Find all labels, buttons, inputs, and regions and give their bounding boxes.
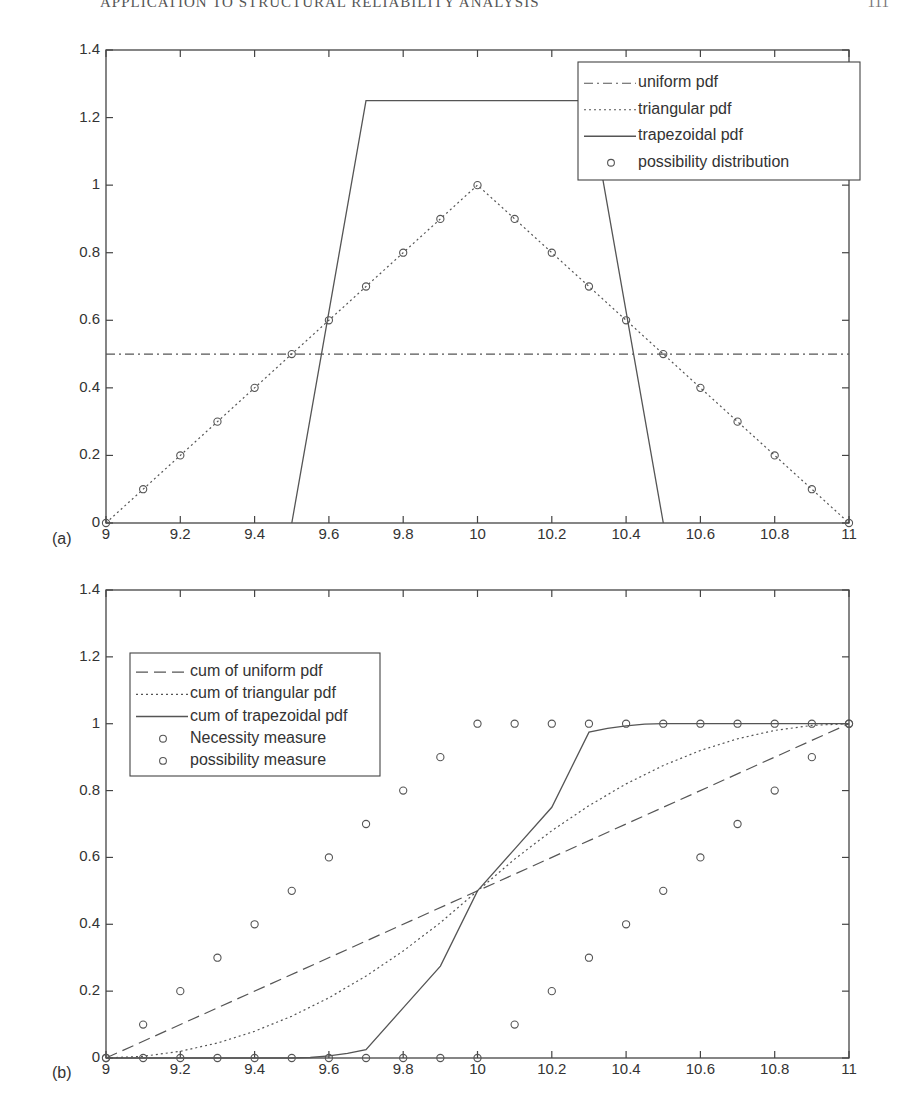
legend-label: possibility measure	[190, 751, 326, 769]
x-tick-label: 10	[448, 1060, 508, 1077]
data-marker	[771, 452, 778, 459]
x-tick-label: 10.6	[670, 1060, 730, 1077]
data-marker	[734, 418, 741, 425]
y-tick-label: 0.6	[48, 847, 100, 864]
x-tick-label: 10.4	[596, 525, 656, 542]
data-marker	[251, 921, 258, 928]
y-tick-label: 0.8	[48, 781, 100, 798]
data-marker	[771, 787, 778, 794]
y-tick-label: 0.8	[48, 243, 100, 260]
data-marker	[214, 954, 221, 961]
legend-label: uniform pdf	[638, 73, 718, 91]
data-marker	[288, 887, 295, 894]
data-marker	[177, 988, 184, 995]
legend-label: cum of uniform pdf	[190, 662, 323, 680]
x-tick-label: 11	[819, 525, 879, 542]
x-tick-label: 9.2	[150, 1060, 210, 1077]
data-marker	[585, 954, 592, 961]
x-tick-label: 9.8	[373, 525, 433, 542]
data-marker	[362, 820, 369, 827]
data-marker	[511, 720, 518, 727]
data-marker	[140, 1021, 147, 1028]
data-marker	[548, 988, 555, 995]
x-tick-label: 9.2	[150, 525, 210, 542]
y-tick-label: 1	[48, 175, 100, 192]
data-marker	[474, 720, 481, 727]
data-marker	[623, 921, 630, 928]
x-tick-label: 10.8	[745, 1060, 805, 1077]
panel-label: (b)	[52, 1064, 72, 1082]
legend-label: possibility distribution	[638, 153, 789, 171]
data-marker	[585, 283, 592, 290]
x-tick-label: 10	[448, 525, 508, 542]
data-marker	[474, 182, 481, 189]
y-tick-label: 0	[48, 513, 100, 530]
y-tick-label: 0.4	[48, 378, 100, 395]
data-marker	[437, 754, 444, 761]
x-tick-label: 11	[819, 1060, 879, 1077]
y-tick-label: 1.4	[48, 40, 100, 57]
legend-label: cum of trapezoidal pdf	[190, 707, 347, 725]
y-tick-label: 0.2	[48, 981, 100, 998]
data-marker	[585, 720, 592, 727]
x-tick-label: 10.2	[522, 1060, 582, 1077]
data-marker	[808, 754, 815, 761]
data-marker	[697, 384, 704, 391]
x-tick-label: 9.4	[225, 525, 285, 542]
x-tick-label: 9.6	[299, 525, 359, 542]
data-marker	[548, 720, 555, 727]
y-tick-label: 0.2	[48, 445, 100, 462]
y-tick-label: 0.6	[48, 310, 100, 327]
y-tick-label: 0.4	[48, 914, 100, 931]
data-marker	[808, 486, 815, 493]
x-tick-label: 10.2	[522, 525, 582, 542]
data-marker	[697, 854, 704, 861]
y-tick-label: 0	[48, 1048, 100, 1065]
data-marker	[548, 249, 555, 256]
data-marker	[511, 1021, 518, 1028]
y-tick-label: 1.2	[48, 647, 100, 664]
chart-panel-a	[102, 50, 860, 527]
y-tick-label: 1	[48, 714, 100, 731]
data-marker	[325, 854, 332, 861]
y-tick-label: 1.2	[48, 108, 100, 125]
data-marker	[734, 820, 741, 827]
x-tick-label: 10.8	[745, 525, 805, 542]
data-marker	[623, 317, 630, 324]
legend-label: trapezoidal pdf	[638, 126, 743, 144]
data-marker	[660, 887, 667, 894]
legend-label: triangular pdf	[638, 100, 731, 118]
x-tick-label: 9.6	[299, 1060, 359, 1077]
legend-label: cum of triangular pdf	[190, 684, 336, 702]
data-marker	[400, 787, 407, 794]
panel-label: (a)	[52, 530, 72, 548]
x-tick-label: 10.6	[670, 525, 730, 542]
legend-label: Necessity measure	[190, 729, 326, 747]
x-tick-label: 9.8	[373, 1060, 433, 1077]
data-marker	[511, 215, 518, 222]
x-tick-label: 9.4	[225, 1060, 285, 1077]
y-tick-label: 1.4	[48, 580, 100, 597]
x-tick-label: 10.4	[596, 1060, 656, 1077]
chart-panel-b	[102, 590, 852, 1062]
